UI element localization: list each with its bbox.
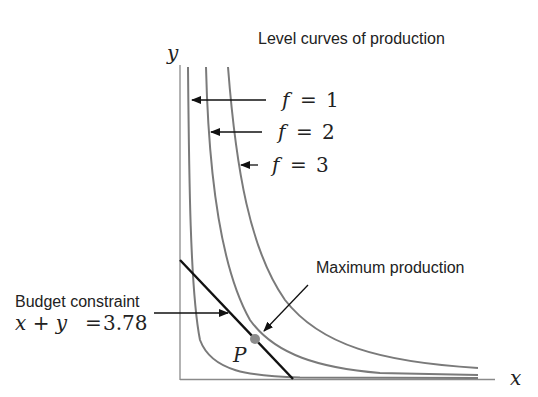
budget-equation-rhs: 3.78	[103, 311, 148, 335]
label-f3: f = 3	[241, 153, 329, 177]
label-f1: f = 1	[192, 88, 339, 112]
optimum-annotation: Maximum production	[264, 259, 465, 331]
budget-equation-eq: =	[85, 311, 102, 335]
f2-val: 2	[322, 120, 335, 144]
f3-var: f	[270, 153, 283, 177]
budget-label: Budget constraint	[15, 293, 140, 310]
f3-val: 3	[316, 153, 329, 177]
y-axis-label: y	[166, 41, 179, 65]
f3-eq: =	[290, 153, 307, 177]
x-axis-label: x	[510, 366, 521, 390]
f2-var: f	[276, 120, 289, 144]
label-f2: f = 2	[211, 120, 335, 144]
axes: y x	[166, 41, 521, 390]
f1-var: f	[280, 88, 293, 112]
f1-eq: =	[300, 88, 317, 112]
level-curve-f3	[228, 67, 478, 368]
production-diagram: y x P Level curves of production f = 1 f…	[0, 0, 538, 397]
chart-title: Level curves of production	[258, 30, 445, 47]
maximum-production-label: Maximum production	[316, 259, 465, 276]
budget-equation-lhs: x + y	[15, 311, 68, 335]
optimum-point	[250, 334, 260, 344]
level-curves	[188, 67, 478, 378]
f1-val: 1	[326, 88, 339, 112]
arrow-optimum	[264, 285, 308, 331]
f2-eq: =	[296, 120, 313, 144]
optimum-point-label: P	[232, 343, 247, 367]
